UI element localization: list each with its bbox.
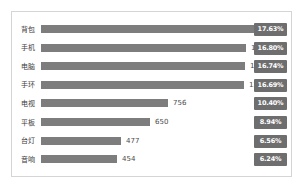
bar-value-label: 756 (173, 98, 186, 108)
percent-badge: 17.63% (254, 23, 287, 36)
percent-badge: 16.69% (254, 79, 287, 92)
bar-track: 1217 (41, 58, 287, 76)
bar-value-label: 477 (126, 136, 139, 146)
bar-value-label: 454 (122, 154, 135, 164)
category-label: 平板 (14, 119, 42, 128)
bar-fill[interactable] (41, 44, 246, 52)
percent-badge: 6.24% (254, 153, 287, 166)
bar-row: 手机122116.80% (12, 40, 291, 58)
bar-fill[interactable] (41, 137, 121, 145)
bar-row: 电视75610.40% (12, 95, 291, 113)
bar-track: 454 (41, 151, 287, 169)
bar-fill[interactable] (41, 81, 244, 89)
bar-fill[interactable] (41, 25, 256, 33)
percent-badge: 16.74% (254, 60, 287, 73)
bar-track: 650 (41, 114, 287, 132)
bar-value-label: 650 (155, 117, 168, 127)
bar-fill[interactable] (41, 118, 150, 126)
percent-badge: 10.40% (254, 97, 287, 110)
bar-fill[interactable] (41, 99, 168, 107)
category-label: 背包 (14, 26, 42, 35)
bar-row: 音响4546.24% (12, 151, 291, 169)
bar-chart-rows: 背包128217.63%手机122116.80%电脑121716.74%手环12… (12, 12, 291, 176)
bar-row: 平板6508.94% (12, 114, 291, 132)
chart-frame: 背包128217.63%手机122116.80%电脑121716.74%手环12… (11, 11, 292, 177)
bar-track: 1213 (41, 77, 287, 95)
category-label: 电脑 (14, 63, 42, 72)
category-label: 手环 (14, 81, 42, 90)
bar-fill[interactable] (41, 155, 117, 163)
category-label: 音响 (14, 156, 42, 165)
bar-row: 手环121316.69% (12, 77, 291, 95)
category-label: 台灯 (14, 137, 42, 146)
bar-fill[interactable] (41, 62, 245, 70)
bar-row: 电脑121716.74% (12, 58, 291, 76)
bar-track: 756 (41, 95, 287, 113)
bar-row: 背包128217.63% (12, 21, 291, 39)
percent-badge: 6.56% (254, 135, 287, 148)
bar-track: 1221 (41, 40, 287, 58)
bar-track: 477 (41, 133, 287, 151)
category-label: 手机 (14, 44, 42, 53)
percent-badge: 8.94% (254, 116, 287, 129)
category-label: 电视 (14, 100, 42, 109)
percent-badge: 16.80% (254, 42, 287, 55)
bar-row: 台灯4776.56% (12, 133, 291, 151)
bar-track: 1282 (41, 21, 287, 39)
